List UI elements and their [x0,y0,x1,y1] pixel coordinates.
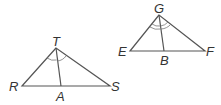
angle-mark-bgf-outer [161,24,171,29]
label-t: T [52,34,61,49]
label-g: G [154,1,164,16]
segment-ta [56,48,61,86]
label-s: S [111,79,120,94]
triangle-rst: T R S A [9,34,120,104]
triangle-rst-outline [22,48,110,86]
geometry-figure: T R S A G E F B [0,0,221,105]
label-a: A [55,89,65,104]
triangle-efg: G E F B [118,1,215,68]
label-b: B [160,53,169,68]
angle-mark-rta [47,58,57,60]
segment-gb [159,15,164,51]
angle-mark-ats [57,56,66,61]
angle-mark-egb-outer [150,27,161,29]
label-f: F [206,44,215,59]
triangle-efg-outline [130,15,205,51]
label-r: R [9,79,18,94]
angle-mark-bgf-inner [161,22,168,26]
label-e: E [118,44,127,59]
angle-mark-egb-inner [152,24,160,26]
